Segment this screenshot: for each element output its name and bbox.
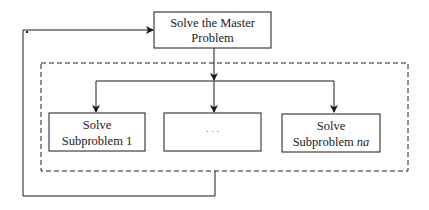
ellipsis-text: · · · — [206, 126, 220, 136]
feedback-loop-corner-dot — [26, 31, 28, 33]
subproblem-1-node: Solve Subproblem 1 — [49, 113, 145, 151]
subproblem-1-line1: Solve — [83, 118, 112, 132]
subproblem-1-line2: Subproblem 1 — [62, 134, 132, 148]
master-line1: Solve the Master — [170, 16, 256, 30]
subproblem-na-node: Solve Subproblem na — [282, 114, 380, 152]
diagram-canvas: Solve the Master Problem Solve Subproble… — [0, 0, 429, 210]
master-problem-node: Solve the Master Problem — [154, 12, 271, 48]
master-line2: Problem — [191, 31, 234, 45]
subproblem-na-line2: Subproblem na — [293, 135, 370, 149]
subproblem-na-line1: Solve — [317, 119, 346, 133]
subproblem-ellipsis-node: · · · — [164, 113, 261, 151]
